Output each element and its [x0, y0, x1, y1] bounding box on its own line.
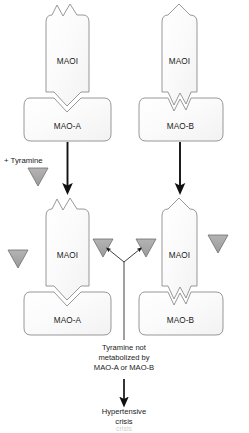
note-line-3: MAO-A or MAO-B: [94, 363, 154, 372]
top-right-enzyme-label: MAO-B: [167, 122, 195, 131]
bottom-left-enzyme-label: MAO-A: [54, 316, 82, 325]
tyramine-triangle-icon: [28, 168, 48, 186]
top-left-maoi-label: MAOI: [57, 57, 78, 66]
bottom-right-maoi-shape: [162, 198, 197, 299]
tyramine-triangle-icon: [136, 239, 156, 257]
bottom-left-maoi-shape: [46, 198, 89, 300]
tyramine-triangle-icon: [8, 250, 28, 268]
bottom-left-maoi-label: MAOI: [57, 251, 78, 260]
bottom-left-group: MAOI MAO-A: [8, 198, 113, 335]
bottom-right-group: MAOI MAO-B: [136, 198, 228, 335]
bottom-right-enzyme-label: MAO-B: [167, 316, 195, 325]
tyramine-blocked-connector: [108, 249, 140, 340]
outcome-text: Hypertensive crisis: [102, 407, 146, 426]
bottom-right-maoi-label: MAOI: [169, 251, 190, 260]
top-right-enzyme-shape: [139, 98, 223, 141]
note-line-1-prefix: Tyramine: [102, 343, 135, 352]
maoi-tyramine-diagram: MAOI MAO-A MAOI MAO-B + Tyramine MAOI: [0, 0, 249, 433]
outcome-line-1: Hypertensive: [102, 407, 146, 416]
tyramine-triangle-icon: [208, 235, 228, 253]
tyramine-triangle-icon: [93, 239, 113, 257]
diagram-canvas: MAOI MAO-A MAOI MAO-B + Tyramine MAOI: [0, 0, 249, 433]
top-left-maoi-shape: [46, 4, 89, 106]
top-right-maoi-label: MAOI: [169, 57, 190, 66]
tyramine-input-group: + Tyramine: [4, 156, 48, 186]
note-line-2: metabolized by: [98, 353, 149, 362]
note-line-1-emphasis: not: [135, 343, 146, 352]
blocked-metabolism-note: Tyramine not metabolized by MAO-A or MAO…: [94, 343, 154, 372]
bottom-right-enzyme-shape: [139, 292, 223, 335]
tyramine-label: + Tyramine: [4, 156, 43, 165]
top-left-enzyme-label: MAO-A: [54, 122, 82, 131]
top-right-maoi-shape: [162, 4, 197, 105]
top-right-group: MAOI MAO-B: [139, 4, 223, 141]
top-left-group: MAOI MAO-A: [24, 4, 111, 141]
note-line-1: Tyramine not: [102, 343, 147, 352]
cut-off-caption: crisis: [116, 425, 132, 432]
